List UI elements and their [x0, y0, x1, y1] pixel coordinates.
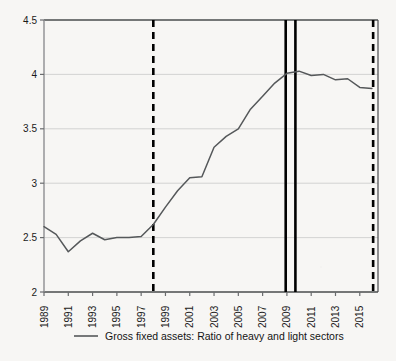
x-tick-label: 2009	[281, 305, 292, 328]
y-tick-label: 2	[31, 287, 37, 298]
y-tick-label: 3.5	[23, 123, 37, 134]
x-tick-label: 1995	[111, 305, 122, 328]
x-tick-label: 2011	[306, 306, 317, 328]
y-tick-label: 4.5	[23, 15, 37, 26]
x-tick-label: 2005	[233, 305, 244, 328]
x-tick-label: 2001	[184, 305, 195, 328]
legend-label: Gross fixed assets: Ratio of heavy and l…	[105, 330, 344, 342]
x-tick-label: 1991	[63, 305, 74, 328]
y-tick-label: 4	[31, 69, 37, 80]
x-tick-label: 1993	[87, 305, 98, 328]
x-tick-label: 2003	[209, 305, 220, 328]
x-tick-label: 1989	[39, 305, 50, 328]
y-tick-label: 3	[31, 178, 37, 189]
chart-legend: Gross fixed assets: Ratio of heavy and l…	[74, 330, 344, 342]
x-tick-label: 1997	[136, 305, 147, 328]
x-tick-label: 2013	[330, 305, 341, 328]
x-tick-label: 2007	[257, 305, 268, 328]
x-tick-label: 1999	[160, 305, 171, 328]
y-tick-label: 2.5	[23, 232, 37, 243]
chart-container: 22.533.544.5 198919911993199519971999200…	[0, 0, 396, 361]
x-tick-label: 2015	[354, 305, 365, 328]
line-chart: 22.533.544.5 198919911993199519971999200…	[0, 0, 396, 361]
